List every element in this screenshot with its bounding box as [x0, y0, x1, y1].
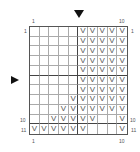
- chart-cell: [30, 27, 40, 37]
- bottom-label-col1: 1: [32, 139, 35, 144]
- chart-cell: V: [88, 76, 98, 86]
- stitch-chart-grid: VVVVVVVVVVVVVVVVVVVVVVVVVVVVVVVVVVVVVVVV…: [29, 26, 128, 135]
- chart-cell: [30, 66, 40, 76]
- chart-cell: [69, 46, 79, 56]
- chart-cell: [69, 66, 79, 76]
- chart-cell: [69, 56, 79, 66]
- chart-cell: V: [117, 124, 127, 134]
- top-label-col10: 10: [119, 19, 125, 24]
- chart-cell: V: [117, 37, 127, 47]
- chart-cell: [88, 124, 98, 134]
- chart-cell: [40, 27, 50, 37]
- chart-cell: V: [108, 76, 118, 86]
- chart-cell: [69, 27, 79, 37]
- chart-cell: [49, 46, 59, 56]
- chart-cell: V: [30, 124, 40, 134]
- chart-cell: V: [78, 37, 88, 47]
- chart-cell: [49, 76, 59, 86]
- chart-cell: V: [59, 124, 69, 134]
- chart-cell: V: [69, 115, 79, 125]
- chart-cell: [40, 46, 50, 56]
- chart-cell: [59, 85, 69, 95]
- left-label-row10: 10: [20, 118, 26, 123]
- chart-cell: V: [78, 124, 88, 134]
- chart-cell: V: [78, 46, 88, 56]
- chart-cell: V: [88, 115, 98, 125]
- chart-cell: [49, 85, 59, 95]
- chart-cell: [30, 115, 40, 125]
- chart-cell: [59, 66, 69, 76]
- chart-cell: [40, 56, 50, 66]
- chart-cell: [30, 76, 40, 86]
- chart-cell: [98, 124, 108, 134]
- chart-cell: V: [117, 115, 127, 125]
- chart-cell: V: [117, 46, 127, 56]
- chart-cell: [59, 37, 69, 47]
- center-column-marker-arrow-icon: [74, 10, 84, 18]
- chart-cell: V: [40, 124, 50, 134]
- chart-cell: [30, 105, 40, 115]
- chart-cell: [30, 95, 40, 105]
- chart-cell: [59, 46, 69, 56]
- chart-cell: [59, 76, 69, 86]
- chart-cell: [59, 27, 69, 37]
- top-label-col1: 1: [32, 19, 35, 24]
- chart-cell: V: [78, 76, 88, 86]
- chart-cell: [40, 85, 50, 95]
- chart-cell: V: [88, 37, 98, 47]
- left-label-row1: 1: [24, 29, 27, 34]
- chart-cell: [40, 115, 50, 125]
- chart-cell: [108, 115, 118, 125]
- chart-cell: V: [108, 105, 118, 115]
- chart-cell: [49, 66, 59, 76]
- chart-cell: V: [108, 46, 118, 56]
- chart-cell: [40, 66, 50, 76]
- chart-cell: V: [98, 76, 108, 86]
- chart-cell: [49, 37, 59, 47]
- chart-cell: [69, 37, 79, 47]
- chart-cell: V: [117, 76, 127, 86]
- bottom-label-col10: 10: [119, 139, 125, 144]
- chart-cell: V: [69, 124, 79, 134]
- chart-cell: V: [98, 37, 108, 47]
- chart-cell: [30, 56, 40, 66]
- chart-cell: V: [78, 115, 88, 125]
- chart-cell: [40, 76, 50, 86]
- right-label-row11: 11: [131, 128, 136, 133]
- chart-cell: V: [98, 46, 108, 56]
- chart-cell: [59, 56, 69, 66]
- chart-cell: [30, 85, 40, 95]
- chart-cell: [49, 56, 59, 66]
- chart-cell: [98, 115, 108, 125]
- chart-cell: [40, 37, 50, 47]
- chart-cell: [40, 105, 50, 115]
- chart-cell: V: [108, 37, 118, 47]
- chart-cell: V: [98, 105, 108, 115]
- chart-cell: [49, 27, 59, 37]
- chart-cell: V: [88, 46, 98, 56]
- chart-cell: [49, 95, 59, 105]
- right-label-row10: 10: [130, 118, 136, 123]
- center-row-marker-arrow-icon: [11, 76, 19, 84]
- chart-cell: V: [49, 115, 59, 125]
- right-label-row1: 1: [131, 29, 134, 34]
- chart-cell: V: [59, 115, 69, 125]
- left-label-row11: 11: [21, 128, 26, 133]
- chart-cell: V: [49, 124, 59, 134]
- chart-cell: [108, 124, 118, 134]
- chart-cell: [40, 95, 50, 105]
- chart-cell: [69, 76, 79, 86]
- chart-cell: [30, 46, 40, 56]
- chart-cell: [30, 37, 40, 47]
